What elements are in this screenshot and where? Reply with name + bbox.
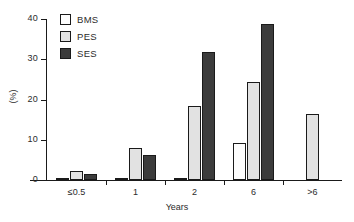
legend-item-pes: PES — [60, 29, 99, 44]
y-tick-mark — [41, 180, 47, 181]
bar-pes-3 — [247, 82, 260, 180]
bar-bms-0 — [56, 178, 69, 180]
x-tick-label: >6 — [307, 188, 317, 197]
legend-swatch-pes — [60, 31, 71, 42]
y-tick-label: 10 — [28, 135, 38, 144]
bar-pes-0 — [70, 171, 83, 180]
legend-item-ses: SES — [60, 46, 99, 61]
x-axis-line — [30, 180, 342, 181]
chart-figure: (%) 010203040 ≤0.5126>6 Years BMS PES SE… — [0, 0, 354, 222]
y-tick-label: 20 — [28, 95, 38, 104]
x-tick-mark — [165, 180, 166, 185]
legend-item-bms: BMS — [60, 12, 99, 27]
bar-bms-3 — [233, 143, 246, 180]
legend-label-bms: BMS — [77, 15, 99, 25]
bar-ses-1 — [143, 155, 156, 180]
legend-label-pes: PES — [77, 32, 97, 42]
bar-ses-2 — [202, 52, 215, 180]
bar-ses-3 — [261, 24, 274, 180]
x-tick-mark — [106, 180, 107, 185]
y-tick-label: 40 — [28, 14, 38, 23]
x-tick-label: 6 — [251, 188, 256, 197]
y-tick-label: 0 — [33, 175, 38, 184]
x-tick-label: 1 — [133, 188, 138, 197]
x-tick-mark — [224, 180, 225, 185]
x-tick-label: 2 — [192, 188, 197, 197]
bar-bms-1 — [115, 178, 128, 180]
chart-legend: BMS PES SES — [60, 12, 99, 63]
y-tick-label: 30 — [28, 54, 38, 63]
bar-ses-0 — [84, 174, 97, 180]
x-tick-label: ≤0.5 — [68, 188, 85, 197]
legend-swatch-bms — [60, 14, 71, 25]
bar-pes-2 — [188, 106, 201, 180]
legend-swatch-ses — [60, 48, 71, 59]
x-tick-mark — [283, 180, 284, 185]
bar-pes-1 — [129, 148, 142, 180]
legend-label-ses: SES — [77, 49, 97, 59]
bar-pes-4 — [306, 114, 319, 180]
bar-bms-2 — [174, 178, 187, 180]
y-axis-title: (%) — [9, 90, 18, 104]
x-axis-title: Years — [0, 203, 354, 212]
